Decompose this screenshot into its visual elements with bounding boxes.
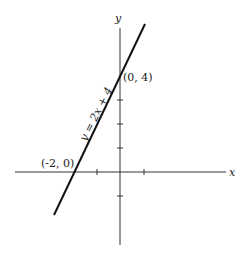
coordinate-plane: y x (0, 4) (-2, 0) y = 2x + 4 — [0, 0, 246, 256]
y-axis-label: y — [114, 12, 122, 25]
point-label-0-4: (0, 4) — [123, 71, 153, 84]
equation-label: y = 2x + 4 — [77, 85, 116, 144]
point-label-neg2-0: (-2, 0) — [41, 157, 74, 170]
x-axis-label: x — [229, 166, 236, 179]
